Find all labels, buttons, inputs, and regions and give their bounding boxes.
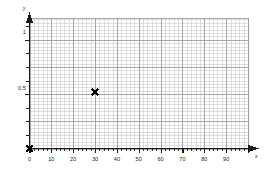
x-tick-label-50: 50 bbox=[136, 157, 142, 163]
x-tick-label-0: 0 bbox=[28, 157, 31, 163]
x-tick-label-70: 70 bbox=[179, 157, 185, 163]
x-tick-label-60: 60 bbox=[157, 157, 163, 163]
x-tick-label-30: 30 bbox=[92, 157, 98, 163]
scatter-plot bbox=[0, 0, 268, 174]
x-tick-label-90: 90 bbox=[223, 157, 229, 163]
x-tick-label-20: 20 bbox=[70, 157, 76, 163]
x-tick-label-10: 10 bbox=[48, 157, 54, 163]
x-tick-label-80: 80 bbox=[201, 157, 207, 163]
x-tick-label-40: 40 bbox=[114, 157, 120, 163]
y-tick-label-1: 1 bbox=[14, 30, 26, 36]
y-axis-label: y bbox=[23, 6, 25, 12]
x-axis-label: x bbox=[255, 154, 257, 160]
y-tick-label-0point5: 0.5 bbox=[10, 86, 26, 92]
